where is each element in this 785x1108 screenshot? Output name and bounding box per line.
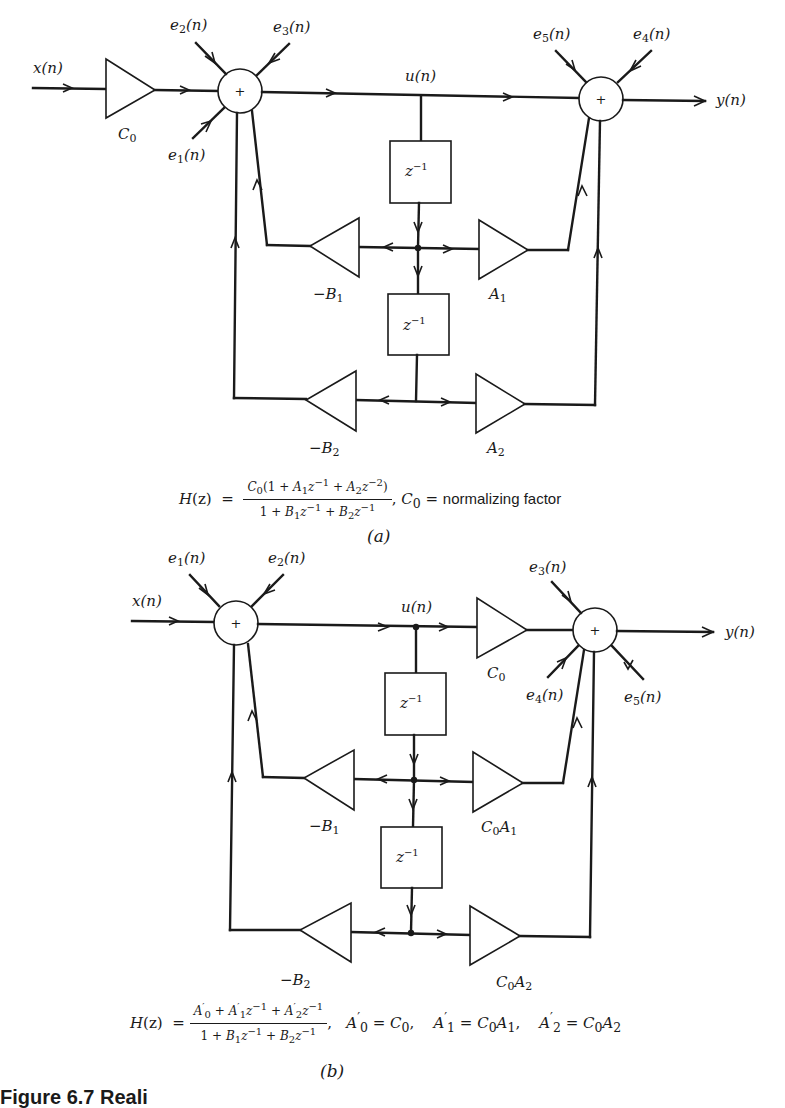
tf-b-relation-1: A′1 = C0A1, xyxy=(433,1014,520,1032)
tf-b-fraction: A′0 + A′1z−1 + A′2z−1 1 + B1z−1 + B2z−1 xyxy=(190,1002,328,1046)
label-gain-neg-b1: −B1 xyxy=(313,287,344,304)
transfer-function-b: H(z) = A′0 + A′1z−1 + A′2z−1 1 + B1z−1 +… xyxy=(130,1002,621,1046)
gain-neg-b1-triangle xyxy=(310,218,359,277)
arrow-icon xyxy=(573,718,582,728)
summer-plus-sign: + xyxy=(590,624,601,637)
label-delay-1: z−1 xyxy=(400,694,423,711)
label-gain-neg-b1: −B1 xyxy=(309,819,340,836)
tf-a-fraction: C0(1 + A1z−1 + A2z−2) 1 + B1z−1 + B2z−1 xyxy=(243,478,391,522)
label-output-y: y(n) xyxy=(725,625,755,640)
panel-a-caption: (a) xyxy=(367,528,390,545)
label-gain-neg-b2: −B2 xyxy=(309,441,340,458)
label-noise-e2: e2(n) xyxy=(170,18,207,35)
label-noise-e5: e5(n) xyxy=(533,27,570,44)
noise-input-e2 xyxy=(196,43,226,74)
label-gain-a1: A1 xyxy=(489,287,507,304)
label-delay-1: z−1 xyxy=(405,162,428,179)
summer-plus-sign: + xyxy=(231,617,242,630)
input-wire xyxy=(132,621,214,622)
label-noise-e1: e1(n) xyxy=(168,551,205,568)
wire xyxy=(359,247,479,249)
label-noise-e4: e4(n) xyxy=(633,27,670,44)
tf-a-denominator: 1 + B1z−1 + B2z−1 xyxy=(243,500,391,521)
label-noise-e2: e2(n) xyxy=(268,551,305,568)
label-noise-e3: e3(n) xyxy=(273,20,310,37)
feedforward-wire-2 xyxy=(595,121,600,405)
wire xyxy=(354,779,473,782)
label-noise-e3: e3(n) xyxy=(529,560,566,577)
wire xyxy=(356,400,476,403)
noise-input-e5 xyxy=(612,646,643,679)
gain-c0a2-triangle xyxy=(470,906,520,965)
label-gain-c0: C0 xyxy=(118,127,136,144)
feedforward-wire-2 xyxy=(590,652,594,937)
tf-a-note: normalizing factor xyxy=(443,490,561,507)
tf-b-relation-0: A′0 = C0, xyxy=(346,1014,414,1032)
wire xyxy=(411,888,412,932)
figure-caption: Figure 6.7 Reali xyxy=(0,1087,148,1107)
feedback-wire-2 xyxy=(230,645,234,930)
feedback-wire-1 xyxy=(252,111,267,245)
label-noise-e4: e4(n) xyxy=(526,688,563,705)
feedback-wire-2 xyxy=(234,113,237,398)
wire xyxy=(416,355,417,401)
label-gain-a2: A2 xyxy=(487,441,505,458)
tf-a-numerator: C0(1 + A1z−1 + A2z−2) xyxy=(243,478,391,500)
gain-c0a1-triangle xyxy=(473,752,523,812)
label-state-u: u(n) xyxy=(405,69,436,84)
transfer-function-a: H(z) = C0(1 + A1z−1 + A2z−2) 1 + B1z−1 +… xyxy=(179,478,561,522)
label-noise-e1: e1(n) xyxy=(168,148,205,165)
wire xyxy=(520,936,590,937)
arrow-icon xyxy=(578,186,587,196)
wire xyxy=(351,932,470,935)
summer-plus-sign: + xyxy=(235,85,246,98)
noise-input-e3 xyxy=(257,44,289,75)
tf-b-denominator: 1 + B1z−1 + B2z−1 xyxy=(190,1024,328,1045)
label-delay-2: z−1 xyxy=(403,316,426,333)
summer-plus-sign: + xyxy=(596,93,607,106)
output-wire xyxy=(617,631,713,632)
label-delay-2: z−1 xyxy=(396,848,419,865)
arrow-icon xyxy=(378,623,388,631)
wire xyxy=(267,245,310,246)
tf-b-relation-2: A′2 = C0A2 xyxy=(539,1014,621,1032)
wire xyxy=(418,203,419,247)
gain-neg-b2-triangle xyxy=(306,371,356,431)
label-gain-c0a2: C0A2 xyxy=(496,975,532,992)
gain-c0-triangle xyxy=(477,598,527,658)
panel-b xyxy=(132,575,713,965)
gain-neg-b2-triangle xyxy=(300,903,351,962)
gain-c0-triangle xyxy=(106,59,155,118)
feedforward-wire-1 xyxy=(568,118,589,250)
label-input-x: x(n) xyxy=(132,594,162,609)
panel-b-caption: (b) xyxy=(320,1063,344,1080)
label-output-y: y(n) xyxy=(716,93,746,108)
wire xyxy=(263,777,304,778)
label-gain-c0a1: C0A1 xyxy=(481,820,517,837)
wire xyxy=(525,404,595,405)
noise-input-e1 xyxy=(193,108,224,138)
feedforward-wire-1 xyxy=(563,650,584,783)
feedback-wire-1 xyxy=(248,644,263,777)
gain-a2-triangle xyxy=(476,374,525,433)
wire xyxy=(413,780,414,827)
label-gain-c0: C0 xyxy=(487,666,505,683)
gain-neg-b1-triangle xyxy=(304,750,354,810)
label-noise-e5: e5(n) xyxy=(624,690,661,707)
label-state-u: u(n) xyxy=(401,600,432,615)
wire xyxy=(234,398,306,399)
output-wire xyxy=(623,100,705,101)
noise-input-e4 xyxy=(548,646,578,677)
gain-a1-triangle xyxy=(479,220,528,279)
noise-input-e1 xyxy=(190,575,219,606)
noise-input-e2 xyxy=(252,575,283,606)
label-gain-neg-b2: −B2 xyxy=(280,973,311,990)
noise-input-e4 xyxy=(618,51,651,82)
tf-b-numerator: A′0 + A′1z−1 + A′2z−1 xyxy=(190,1002,328,1024)
label-input-x: x(n) xyxy=(33,61,63,76)
